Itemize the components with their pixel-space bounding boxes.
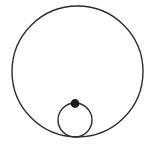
circles-diagram-svg [0, 0, 153, 147]
marked-point-dot [71, 99, 80, 108]
diagram-background [0, 0, 153, 147]
figure-canvas [0, 0, 153, 147]
